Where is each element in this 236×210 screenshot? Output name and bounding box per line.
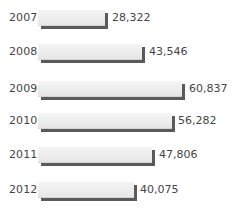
bar [38,81,182,97]
year-label: 2012 [9,183,37,197]
value-label: 56,282 [178,114,217,128]
bar [38,44,142,60]
year-label: 2008 [9,45,37,59]
bar [38,10,105,26]
bar-row-2007: 2007 28,322 [0,10,236,30]
bar [38,182,134,198]
year-label: 2009 [9,82,37,96]
bar-row-2009: 2009 60,837 [0,81,236,101]
value-label: 60,837 [189,82,228,96]
value-label: 28,322 [112,11,151,25]
bar-row-2008: 2008 43,546 [0,44,236,64]
value-label: 43,546 [149,45,188,59]
horizontal-bar-chart: 2007 28,322 2008 43,546 2009 60,837 2010… [0,0,236,210]
bar-row-2012: 2012 40,075 [0,182,236,202]
year-label: 2010 [9,114,37,128]
year-label: 2011 [9,148,37,162]
value-label: 47,806 [159,148,198,162]
bar-row-2011: 2011 47,806 [0,147,236,167]
year-label: 2007 [9,11,37,25]
bar [38,147,152,163]
bar [38,113,172,129]
value-label: 40,075 [140,183,179,197]
bar-row-2010: 2010 56,282 [0,113,236,133]
